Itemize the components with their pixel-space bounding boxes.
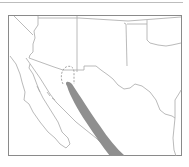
- range-map: [0, 0, 189, 167]
